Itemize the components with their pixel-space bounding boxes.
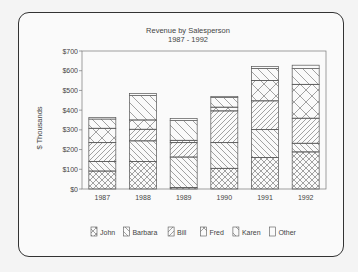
x-tick-label: 1988	[135, 194, 151, 201]
bar-1990	[211, 96, 238, 189]
bar-segment-other	[130, 94, 157, 96]
legend-item-fred: Fred	[201, 227, 225, 236]
y-tick-label: $500	[62, 87, 78, 94]
legend-item-barbara: Barbara	[123, 227, 157, 236]
x-tick-label: 1991	[257, 194, 273, 201]
legend-swatch-icon	[91, 227, 97, 236]
legend-swatch-icon	[201, 227, 207, 236]
y-tick-label: $700	[62, 48, 78, 55]
x-tick-label: 1990	[217, 194, 233, 201]
y-tick-label: $0	[70, 186, 78, 193]
bar-segment-john	[252, 158, 279, 189]
bar-1987	[89, 118, 116, 189]
bar-segment-john	[211, 168, 238, 189]
bar-segment-fred	[252, 81, 279, 101]
x-tick-label: 1992	[298, 194, 314, 201]
y-tick-label: $200	[62, 146, 78, 153]
bar-segment-fred	[211, 107, 238, 111]
y-tick-label: $300	[62, 126, 78, 133]
chart-subtitle: 1987 - 1992	[168, 35, 208, 44]
bar-segment-barbara	[130, 141, 157, 162]
bar-segment-barbara	[292, 143, 319, 152]
bar-segment-karen	[130, 96, 157, 120]
legend-label: Fred	[210, 229, 225, 236]
bar-segment-barbara	[252, 130, 279, 158]
legend-swatch-icon	[168, 227, 174, 236]
y-tick-label: $400	[62, 107, 78, 114]
legend-label: Barbara	[132, 229, 157, 236]
bar-segment-fred	[89, 128, 116, 142]
bar-segment-other	[252, 66, 279, 68]
bar-segment-bill	[211, 111, 238, 143]
legend-swatch-icon	[233, 227, 239, 236]
x-tick-label: 1989	[176, 194, 192, 201]
bar-segment-john	[292, 152, 319, 189]
bar-segment-john	[89, 171, 116, 189]
plot-area: $0$100$200$300$400$500$600$7001987198819…	[62, 48, 326, 202]
x-tick-label: 1987	[95, 194, 111, 201]
bar-1991	[252, 66, 279, 189]
legend-item-bill: Bill	[168, 227, 187, 236]
bar-segment-fred	[170, 140, 197, 142]
bar-segment-bill	[292, 118, 319, 143]
stacked-bar-chart: Revenue by Salesperson 1987 - 1992 $ Tho…	[0, 0, 358, 272]
bar-segment-karen	[89, 119, 116, 128]
y-tick-label: $600	[62, 67, 78, 74]
bar-1989	[170, 119, 197, 189]
legend-swatch-icon	[269, 227, 275, 236]
legend-label: Bill	[177, 229, 187, 236]
bar-segment-karen	[292, 69, 319, 85]
bar-segment-karen	[211, 98, 238, 108]
bar-1992	[292, 65, 319, 189]
legend: JohnBarbaraBillFredKarenOther	[91, 227, 297, 236]
bar-segment-bill	[170, 143, 197, 157]
bar-segment-barbara	[89, 161, 116, 171]
bar-segment-karen	[170, 121, 197, 141]
y-axis-label: $ Thousands	[35, 106, 44, 149]
bar-1988	[130, 94, 157, 189]
plot-border	[82, 51, 326, 189]
bar-segment-karen	[252, 68, 279, 80]
y-tick-label: $100	[62, 166, 78, 173]
bar-segment-other	[292, 65, 319, 68]
bar-segment-bill	[89, 143, 116, 162]
bar-segment-bill	[130, 129, 157, 141]
bar-segment-other	[211, 96, 238, 97]
legend-label: Other	[278, 229, 296, 236]
bar-segment-other	[170, 119, 197, 121]
bar-segment-john	[130, 161, 157, 189]
bar-segment-barbara	[211, 143, 238, 169]
legend-label: John	[100, 229, 115, 236]
chart-title: Revenue by Salesperson	[146, 26, 230, 35]
bar-segment-barbara	[170, 157, 197, 187]
legend-label: Karen	[242, 229, 261, 236]
bar-segment-fred	[292, 84, 319, 118]
legend-item-john: John	[91, 227, 115, 236]
legend-swatch-icon	[123, 227, 129, 236]
legend-item-karen: Karen	[233, 227, 261, 236]
legend-item-other: Other	[269, 227, 296, 236]
bar-segment-other	[89, 118, 116, 119]
bar-segment-bill	[252, 101, 279, 130]
bar-segment-fred	[130, 120, 157, 129]
